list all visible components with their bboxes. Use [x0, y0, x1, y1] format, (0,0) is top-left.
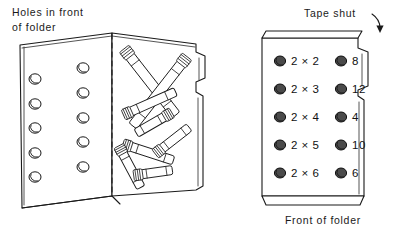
hole-dark — [335, 168, 346, 178]
tape-shut-arrowhead — [376, 26, 383, 34]
problem-text: 2 × 3 — [291, 83, 319, 95]
label-holes-line1: Holes in front — [12, 6, 84, 18]
answer-text: 12 — [352, 83, 366, 95]
problem-text: 2 × 2 — [291, 55, 319, 67]
closed-folder-bottom-band — [262, 196, 364, 205]
answer-text: 4 — [352, 111, 359, 123]
label-holes-line2: of folder — [12, 21, 56, 33]
hole-dark — [335, 140, 346, 150]
clothespin-spring — [133, 169, 143, 181]
hole — [29, 172, 41, 182]
figure-root: Holes in front of folder 2 × 2 — [0, 0, 406, 234]
hole — [29, 148, 41, 158]
hole-dark — [274, 140, 285, 150]
hole — [29, 99, 41, 109]
answer-text: 10 — [352, 139, 366, 151]
hole — [77, 88, 89, 98]
instructional-diagram: Holes in front of folder 2 × 2 — [0, 0, 406, 234]
problem-text: 2 × 6 — [291, 167, 319, 179]
hole-dark — [335, 84, 346, 94]
hole-dark — [274, 84, 285, 94]
hole-dark — [274, 56, 285, 66]
hole — [29, 74, 41, 84]
closed-folder-top-band — [262, 31, 362, 38]
caption-front-of-folder: Front of folder — [285, 214, 361, 226]
label-tape-shut: Tape shut — [304, 7, 356, 19]
hole-dark — [335, 56, 346, 66]
hole — [77, 113, 89, 123]
hole-dark — [274, 168, 285, 178]
problem-text: 2 × 4 — [291, 111, 320, 123]
problem-text: 2 × 5 — [291, 139, 319, 151]
right-closed-folder: 2 × 2 8 2 × 3 12 2 × 4 — [262, 7, 384, 226]
answer-text: 8 — [352, 55, 359, 67]
answer-text: 6 — [352, 167, 359, 179]
hole — [29, 123, 41, 133]
left-open-folder: Holes in front of folder — [12, 6, 205, 208]
hole-dark — [335, 112, 346, 122]
hole — [77, 162, 89, 172]
hole — [77, 137, 89, 147]
hole — [77, 63, 89, 73]
hole-dark — [274, 112, 285, 122]
